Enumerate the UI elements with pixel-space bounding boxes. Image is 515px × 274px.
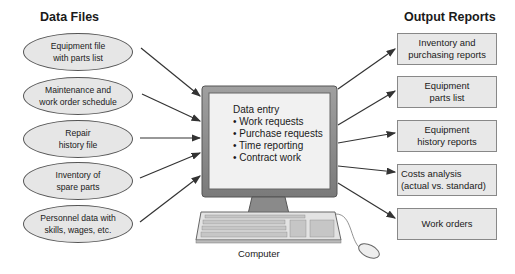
data-file-inventory: Inventory ofspare parts xyxy=(23,162,133,200)
output-arrows xyxy=(338,49,395,218)
mouse-icon xyxy=(336,214,382,261)
input-arrows xyxy=(140,48,200,222)
data-files-heading: Data Files xyxy=(40,10,99,24)
screen-title: Data entry xyxy=(233,104,323,116)
screen-item: • Purchase requests xyxy=(233,128,323,140)
screen-item: • Contract work xyxy=(233,152,323,164)
screen-item: • Work requests xyxy=(233,116,323,128)
data-file-repair-history: Repairhistory file xyxy=(23,120,133,158)
report-equipment-history: Equipmenthistory reports xyxy=(397,120,497,152)
computer-caption: Computer xyxy=(238,248,280,259)
data-file-equipment: Equipment filewith parts list xyxy=(23,33,133,71)
data-file-personnel: Personnel data withskills, wages, etc. xyxy=(23,205,133,243)
screen-item: • Time reporting xyxy=(233,140,323,152)
report-equipment-parts: Equipmentparts list xyxy=(397,76,497,108)
output-reports-heading: Output Reports xyxy=(404,10,496,24)
data-file-maintenance: Maintenance andwork order schedule xyxy=(23,77,133,115)
screen-content: Data entry • Work requests • Purchase re… xyxy=(233,104,323,164)
report-work-orders: Work orders xyxy=(397,208,497,240)
report-inventory-purchasing: Inventory andpurchasing reports xyxy=(397,33,497,65)
report-costs-analysis: Costs analysis(actual vs. standard) xyxy=(397,164,497,196)
keyboard-icon xyxy=(196,212,341,243)
